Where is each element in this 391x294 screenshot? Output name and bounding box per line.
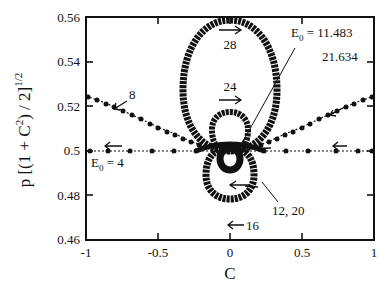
direction-arrows [105,26,347,229]
y-tick-label: 0.54 [57,54,80,69]
annotation-12-20: 12, 20 [272,203,305,218]
x-tick-label: -0.5 [148,245,169,260]
y-tick-label: 0.5 [64,143,80,158]
annotation-21634: 21.634 [322,49,358,64]
y-tick-label: 0.52 [57,99,80,114]
annotation-28: 28 [224,37,237,52]
annotation-8: 8 [129,87,136,102]
x-tick-label: -1 [81,245,92,260]
annotation-24: 24 [224,79,238,94]
leader-line-1220 [262,182,278,202]
x-tick-label: 0.5 [294,245,310,260]
annotation-e0-11483: E0 = 11.483 [291,25,353,43]
annotation-e0-4: E0 = 4 [91,155,124,173]
x-axis-title: C [224,264,235,283]
x-tick-label: 0 [227,245,234,260]
chart: 0.46 0.48 0.5 0.52 0.54 0.56 -1 -0.5 0 0… [0,0,391,294]
y-axis-title: p [(1 + C2) / 2]1/2 [12,73,34,188]
annotation-16: 16 [246,218,260,233]
y-tick-label: 0.48 [57,188,80,203]
y-tick-label: 0.46 [57,232,80,247]
series-loop-16 [220,148,240,170]
x-tick-label: 1 [371,245,378,260]
y-tick-label: 0.56 [57,10,80,25]
